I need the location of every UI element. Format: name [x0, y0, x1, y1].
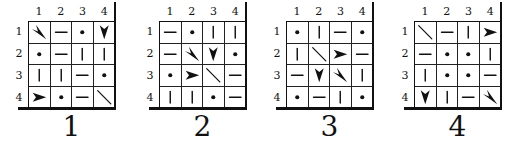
dot-icon [352, 87, 373, 108]
puzzle-1: 123412341 [0, 0, 120, 145]
dot-icon [203, 87, 224, 108]
grid-cell [51, 22, 73, 44]
arrow-down-icon [309, 65, 330, 86]
arrow-down-right-icon [182, 44, 203, 65]
horizontal-line-icon [330, 22, 351, 43]
grid-cell [160, 87, 182, 109]
dot-icon [225, 44, 246, 65]
puzzle-2: 123412342 [131, 0, 251, 145]
arrow-right-icon [480, 22, 501, 43]
dot-icon [72, 22, 93, 43]
row-numbers: 1234 [398, 21, 412, 108]
grid-cell [29, 87, 51, 109]
column-numbers: 1234 [286, 5, 373, 19]
grid-cell [330, 22, 352, 44]
grid-cell [437, 87, 459, 109]
row-number: 1 [398, 21, 412, 43]
vertical-line-icon [330, 87, 351, 108]
grid-cell [437, 22, 459, 44]
grid-cell [352, 22, 374, 44]
row-number: 2 [12, 43, 26, 65]
grid-cell [330, 65, 352, 87]
grid-cell [182, 65, 204, 87]
dot-icon [458, 44, 479, 65]
grid-cell [480, 65, 502, 87]
vertical-line-icon [72, 44, 93, 65]
right-border [245, 2, 247, 110]
horizontal-line-icon [72, 87, 93, 108]
puzzle-label: 1 [28, 110, 115, 144]
arrow-down-icon [203, 44, 224, 65]
grid-cell [203, 87, 225, 109]
column-number: 3 [72, 5, 94, 19]
dot-icon [94, 65, 115, 86]
column-number: 1 [28, 5, 50, 19]
horizontal-line-icon [415, 44, 436, 65]
column-number: 4 [93, 5, 115, 19]
row-number: 2 [270, 43, 284, 65]
grid-cell [309, 65, 331, 87]
column-number: 2 [50, 5, 72, 19]
grid-cell [51, 44, 73, 66]
arrow-down-right-icon [29, 22, 50, 43]
dot-icon [160, 65, 181, 86]
grid-cell [480, 22, 502, 44]
grid-cell [287, 44, 309, 66]
vertical-line-icon [458, 22, 479, 43]
grid-cell [415, 65, 437, 87]
arrow-down-icon [94, 22, 115, 43]
vertical-line-icon [287, 44, 308, 65]
column-numbers: 1234 [28, 5, 115, 19]
arrow-down-icon [415, 87, 436, 108]
horizontal-line-icon [458, 87, 479, 108]
grid-cell [458, 87, 480, 109]
row-number: 3 [12, 65, 26, 87]
horizontal-line-icon [160, 44, 181, 65]
column-number: 2 [181, 5, 203, 19]
column-number: 3 [330, 5, 352, 19]
grid-cell [287, 65, 309, 87]
puzzle-label: 2 [159, 110, 246, 144]
grid-cell [415, 22, 437, 44]
grid-cell [287, 87, 309, 109]
vertical-line-icon [480, 44, 501, 65]
dot-icon [352, 22, 373, 43]
column-number: 2 [308, 5, 330, 19]
dot-icon [437, 44, 458, 65]
row-number: 3 [398, 65, 412, 87]
horizontal-line-icon [352, 44, 373, 65]
grid-cell [182, 22, 204, 44]
grid-cell [309, 44, 331, 66]
vertical-line-icon [437, 87, 458, 108]
grid-cell [94, 87, 116, 109]
vertical-line-icon [160, 87, 181, 108]
row-number: 3 [143, 65, 157, 87]
vertical-line-icon [51, 65, 72, 86]
column-number: 1 [414, 5, 436, 19]
grid-cell [51, 65, 73, 87]
grid-cell [352, 65, 374, 87]
dot-icon [287, 87, 308, 108]
row-numbers: 1234 [12, 21, 26, 108]
puzzle-label: 3 [286, 110, 373, 144]
column-numbers: 1234 [414, 5, 501, 19]
grid-cell [287, 22, 309, 44]
horizontal-line-icon [225, 87, 246, 108]
grid-cell [94, 65, 116, 87]
horizontal-line-icon [72, 65, 93, 86]
diagonal-line-icon [203, 65, 224, 86]
grid-cell [203, 65, 225, 87]
vertical-line-icon [94, 44, 115, 65]
grid-cell [182, 87, 204, 109]
grid-cell [72, 65, 94, 87]
grid-cell [225, 22, 247, 44]
vertical-line-icon [203, 22, 224, 43]
dot-icon [51, 87, 72, 108]
arrow-down-right-icon [480, 87, 501, 108]
grid-cell [29, 44, 51, 66]
grid-cell [72, 44, 94, 66]
row-number: 1 [270, 21, 284, 43]
grid-cell [437, 44, 459, 66]
symbol-grid [159, 21, 246, 108]
column-number: 2 [436, 5, 458, 19]
